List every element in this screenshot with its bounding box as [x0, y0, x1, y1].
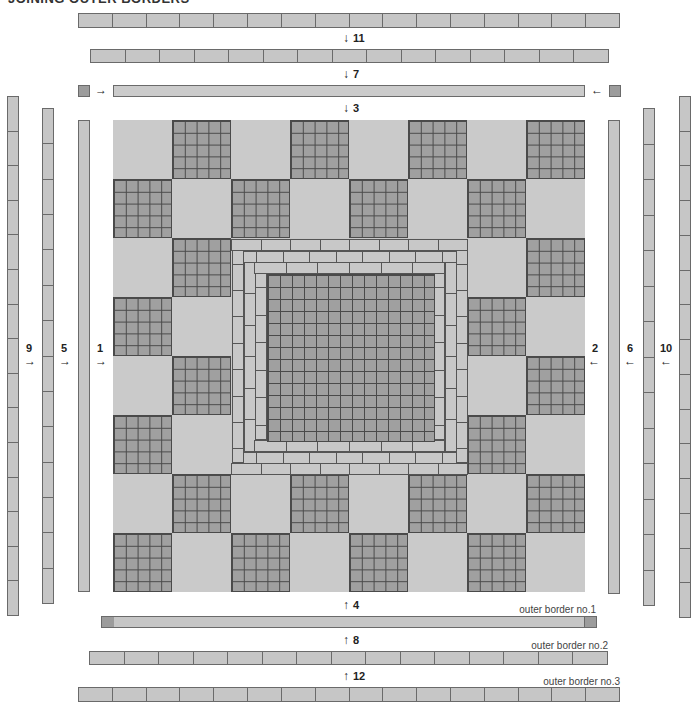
step-label-2: 2: [592, 342, 598, 354]
grid-block: [113, 297, 172, 356]
plain-block: [526, 415, 585, 474]
down-arrow-icon: ↓: [343, 32, 349, 44]
plain-block: [408, 179, 467, 238]
step-label-7: 7: [353, 68, 359, 80]
left-arrow-icon: ←: [660, 355, 672, 367]
left-strip-border2: [42, 108, 54, 604]
grid-block: [526, 474, 585, 533]
grid-block: [526, 120, 585, 179]
plain-block: [172, 297, 231, 356]
grid-block: [408, 120, 467, 179]
grid-block: [113, 415, 172, 474]
diagram-title: JOINING OUTER BORDERS: [8, 0, 190, 6]
right-strip-border3: [679, 96, 691, 618]
step-label-6: 6: [627, 342, 633, 354]
down-arrow-icon: ↓: [343, 68, 349, 80]
grid-block: [172, 474, 231, 533]
plain-block: [113, 474, 172, 533]
left-strip-border3: [7, 96, 19, 616]
plain-block: [526, 297, 585, 356]
caption-outer-border-1: outer border no.1: [440, 604, 596, 615]
grid-block: [290, 474, 349, 533]
top-strip-border1: [113, 85, 585, 97]
plain-block: [172, 533, 231, 592]
plain-block: [526, 533, 585, 592]
left-arrow-icon: ←: [591, 84, 603, 96]
top-strip-border3: [78, 13, 620, 28]
up-arrow-icon: ↑: [343, 599, 349, 611]
left-arrow-icon: ←: [624, 355, 636, 367]
step-label-3: 3: [353, 102, 359, 114]
corner-square: [78, 85, 90, 97]
step-label-10: 10: [660, 342, 672, 354]
grid-block: [349, 533, 408, 592]
right-strip-border1: [608, 120, 620, 594]
corner-square: [609, 85, 621, 97]
plain-block: [231, 120, 290, 179]
step-label-9: 9: [26, 342, 32, 354]
inner-grid: [267, 274, 435, 442]
grid-block: [113, 533, 172, 592]
plain-block: [113, 120, 172, 179]
plain-block: [526, 179, 585, 238]
plain-block: [290, 533, 349, 592]
step-label-5: 5: [61, 342, 67, 354]
bottom-strip-border3: [78, 687, 620, 702]
step-label-1: 1: [97, 342, 103, 354]
grid-block: [290, 120, 349, 179]
plain-block: [349, 120, 408, 179]
plain-block: [113, 356, 172, 415]
top-strip-border2: [90, 49, 609, 63]
grid-block: [526, 238, 585, 297]
left-arrow-icon: ←: [588, 355, 600, 367]
up-arrow-icon: ↑: [343, 670, 349, 682]
caption-outer-border-2: outer border no.2: [450, 640, 608, 651]
grid-block: [526, 356, 585, 415]
up-arrow-icon: ↑: [343, 634, 349, 646]
right-arrow-icon: →: [95, 84, 107, 96]
grid-block: [467, 297, 526, 356]
step-label-12: 12: [353, 670, 365, 682]
grid-block: [113, 179, 172, 238]
plain-block: [172, 415, 231, 474]
plain-block: [408, 533, 467, 592]
plain-block: [467, 238, 526, 297]
plain-block: [172, 179, 231, 238]
plain-block: [467, 356, 526, 415]
right-strip-border2: [643, 108, 655, 606]
plain-block: [231, 474, 290, 533]
grid-block: [231, 179, 290, 238]
plain-block: [290, 179, 349, 238]
bottom-strip-border1: [101, 616, 597, 628]
grid-block: [467, 533, 526, 592]
step-label-11: 11: [353, 32, 365, 44]
right-arrow-icon: →: [24, 355, 36, 367]
grid-block: [349, 179, 408, 238]
left-strip-border1: [78, 120, 90, 592]
grid-block: [172, 120, 231, 179]
right-arrow-icon: →: [59, 355, 71, 367]
quilt-center: [113, 120, 585, 592]
caption-outer-border-3: outer border no.3: [460, 676, 620, 687]
grid-block: [231, 533, 290, 592]
plain-block: [467, 120, 526, 179]
grid-block: [172, 238, 231, 297]
plain-block: [467, 474, 526, 533]
plain-block: [113, 238, 172, 297]
grid-block: [408, 474, 467, 533]
step-label-4: 4: [353, 599, 359, 611]
bottom-strip-border2: [89, 651, 608, 665]
down-arrow-icon: ↓: [343, 102, 349, 114]
plain-block: [349, 474, 408, 533]
right-arrow-icon: →: [95, 355, 107, 367]
step-label-8: 8: [353, 634, 359, 646]
grid-block: [467, 179, 526, 238]
grid-block: [172, 356, 231, 415]
center-medallion: [232, 239, 468, 475]
grid-block: [467, 415, 526, 474]
